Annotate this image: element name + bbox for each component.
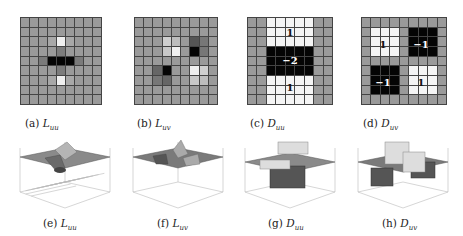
grid-cell [93, 18, 101, 27]
grid-cell [286, 95, 294, 104]
grid-cell [390, 57, 398, 66]
grid-cell [21, 86, 29, 95]
grid-cell [39, 28, 47, 37]
grid-cell [390, 28, 398, 37]
grid-cell [30, 76, 38, 85]
grid-cell [276, 66, 284, 75]
grid-cell [48, 66, 56, 75]
grid-cell [93, 28, 101, 37]
grid-cell [248, 95, 256, 104]
grid-cell [209, 95, 217, 104]
grid-cell [163, 37, 171, 46]
grid-cell [362, 28, 370, 37]
grid-cell [66, 66, 74, 75]
grid-cell [93, 57, 101, 66]
grid-cell [267, 95, 275, 104]
grid-cell [200, 95, 208, 104]
grid-cell [400, 18, 408, 27]
grid-cell [39, 57, 47, 66]
grid-cell [400, 57, 408, 66]
grid-cell [48, 57, 56, 66]
grid-cell [438, 28, 446, 37]
grid-cell [66, 57, 74, 66]
grid-cell [57, 86, 65, 95]
grid-cell [267, 66, 275, 75]
grid-cell [172, 76, 180, 85]
grid-cell [48, 86, 56, 95]
grid-cell [181, 47, 189, 56]
label-d-tl: 1 [370, 37, 396, 51]
grid-cell [400, 76, 408, 85]
label-d-br: 1 [408, 75, 434, 89]
grid-cell [276, 95, 284, 104]
grid-cell [66, 18, 74, 27]
grid-cell [153, 28, 161, 37]
grid-cell [30, 37, 38, 46]
grid-cell [66, 86, 74, 95]
grid-cell [144, 66, 152, 75]
grid-cell [409, 95, 417, 104]
grid-cell [135, 86, 143, 95]
grid-cell [21, 57, 29, 66]
grid-cell [362, 57, 370, 66]
grid-cell [371, 57, 379, 66]
grid-cell [144, 18, 152, 27]
grid-cell [438, 47, 446, 56]
grid-cell [84, 95, 92, 104]
grid-cell [200, 86, 208, 95]
caption-f: (f) Luv [157, 217, 188, 232]
grid-cell [438, 76, 446, 85]
grid-cell [409, 18, 417, 27]
grid-cell [75, 76, 83, 85]
grid-d-duv [361, 17, 447, 105]
box-plot-g [240, 140, 340, 210]
grid-cell [400, 37, 408, 46]
grid-cell [75, 57, 83, 66]
grid-cell [93, 37, 101, 46]
grid-cell [172, 47, 180, 56]
grid-cell [190, 76, 198, 85]
grid-cell [135, 47, 143, 56]
label-d-tr: −1 [408, 37, 434, 51]
label-c-top: 1 [247, 25, 333, 39]
grid-cell [75, 47, 83, 56]
caption-d: (d) Duv [363, 117, 398, 132]
grid-cell [181, 18, 189, 27]
grid-cell [93, 47, 101, 56]
grid-cell [48, 47, 56, 56]
grid-cell [209, 37, 217, 46]
grid-cell [172, 37, 180, 46]
label-c-bot: 1 [247, 80, 333, 94]
grid-cell [30, 86, 38, 95]
grid-cell [163, 47, 171, 56]
grid-cell [135, 37, 143, 46]
grid-cell [438, 66, 446, 75]
grid-cell [144, 86, 152, 95]
grid-cell [48, 95, 56, 104]
grid-cell [30, 18, 38, 27]
grid-cell [84, 66, 92, 75]
grid-cell [209, 76, 217, 85]
grid-cell [144, 95, 152, 104]
grid-cell [21, 37, 29, 46]
grid-cell [163, 28, 171, 37]
grid-cell [172, 86, 180, 95]
grid-cell [144, 28, 152, 37]
grid-cell [200, 57, 208, 66]
grid-cell [428, 18, 436, 27]
grid-cell [93, 66, 101, 75]
grid-cell [190, 37, 198, 46]
grid-cell [153, 66, 161, 75]
grid-cell [209, 28, 217, 37]
grid-cell [30, 66, 38, 75]
grid-cell [144, 47, 152, 56]
grid-cell [419, 28, 427, 37]
grid-cell [172, 66, 180, 75]
grid-cell [172, 57, 180, 66]
grid-cell [163, 95, 171, 104]
grid-cell [190, 66, 198, 75]
grid-cell [75, 18, 83, 27]
grid-cell [390, 95, 398, 104]
grid-cell [314, 66, 322, 75]
grid-cell [257, 66, 265, 75]
